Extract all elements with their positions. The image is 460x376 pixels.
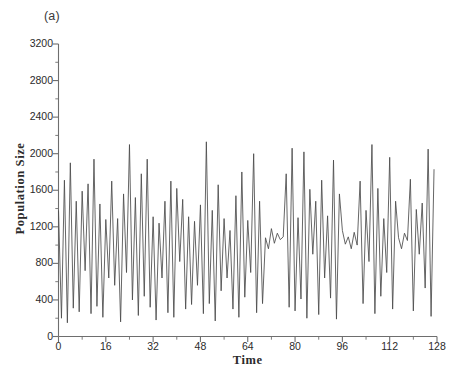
y-tick-label: 2800 (7, 74, 53, 86)
y-tick-label: 1200 (7, 220, 53, 232)
y-tick-label: 2400 (7, 110, 53, 122)
y-tick-label: 400 (7, 293, 53, 305)
y-tick-label: 3200 (7, 37, 53, 49)
y-tick-label: 2000 (7, 147, 53, 159)
figure-panel-a: (a) Population Size Time 040080012001600… (0, 0, 460, 376)
series-polyline (59, 142, 435, 323)
x-tick-label: 128 (407, 340, 460, 352)
data-series (59, 142, 435, 323)
y-tick-label: 800 (7, 256, 53, 268)
y-axis-tick-labels: 0400800120016002000240028003200 (0, 0, 53, 376)
plot-area (0, 0, 460, 376)
axes (53, 44, 437, 342)
x-axis-tick-labels: 0163248648096112128 (0, 340, 460, 360)
y-tick-label: 1600 (7, 183, 53, 195)
